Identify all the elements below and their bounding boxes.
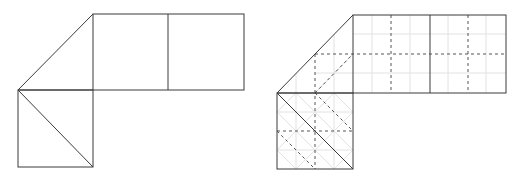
net-with-folds	[277, 15, 506, 169]
net-plain	[18, 14, 244, 167]
flap-hypotenuse	[18, 14, 93, 90]
bottom-diagonal	[18, 90, 93, 167]
faint-grid	[277, 15, 506, 169]
diagram-stage	[0, 0, 520, 181]
net-diagrams	[0, 0, 520, 181]
